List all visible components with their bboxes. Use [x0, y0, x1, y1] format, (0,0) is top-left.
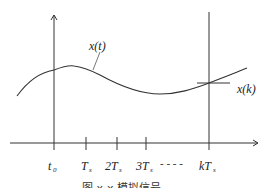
svg-text:3T: 3T [135, 159, 150, 173]
svg-text:T: T [81, 159, 89, 173]
svg-text:s: s [150, 166, 153, 174]
figure-caption: 图 x-x 模拟信号 [82, 181, 161, 188]
signal-curve [17, 66, 247, 96]
svg-text:kT: kT [199, 159, 212, 173]
tick-label-2ts: 2T s [105, 159, 122, 174]
tick-label-ts: T s [81, 159, 92, 174]
svg-text:s: s [119, 166, 122, 174]
svg-text:2T: 2T [105, 159, 119, 173]
tick-ellipsis: - - - - [160, 157, 183, 169]
svg-text:0: 0 [53, 166, 57, 174]
tick-label-3ts: 3T s [135, 159, 153, 174]
svg-text:s: s [89, 166, 92, 174]
tick-label-kts: kT s [199, 159, 216, 174]
sample-label: x(k) [236, 82, 256, 96]
tick-label-t0: t 0 [48, 159, 57, 174]
svg-text:t: t [48, 159, 52, 173]
sampling-diagram: x(t) x(k) t 0 T s 2T s 3T s - - - - kT s… [0, 0, 265, 188]
signal-label: x(t) [88, 39, 106, 53]
svg-text:s: s [213, 166, 216, 174]
signal-leader-line [93, 52, 100, 70]
